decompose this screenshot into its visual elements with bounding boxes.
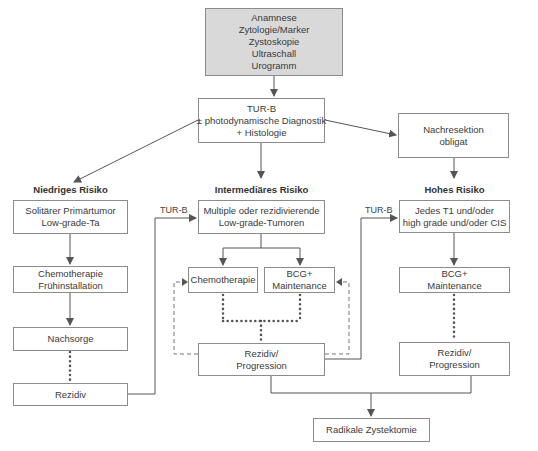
turb-line: ± photodynamische Diagnostik [197, 115, 326, 127]
intermediate-rezidiv-box: Rezidiv/ Progression [198, 343, 325, 376]
intermediate-tumor-box: Multiple oder rezidivierende Low-grade-T… [198, 200, 325, 234]
box-line: Rezidiv/ [245, 348, 279, 360]
box-line: Progression [236, 360, 287, 372]
box-line: Chemotherapie [191, 274, 256, 286]
box-line: Maintenance [427, 280, 481, 292]
diagnostics-line: Zystoskopie [249, 36, 300, 48]
intermediate-chemo-box: Chemotherapie [188, 267, 258, 293]
nachresektion-line: Nachresektion [423, 124, 484, 136]
low-primary-tumor-box: Solitärer Primärtumor Low-grade-Ta [13, 200, 128, 234]
heading-low-risk: Niedriges Risiko [13, 184, 128, 195]
box-line: Radikale Zystektomie [326, 424, 417, 436]
high-rezidiv-box: Rezidiv/ Progression [399, 342, 510, 376]
low-chemo-box: Chemotherapie Frühinstallation [13, 266, 128, 293]
diagnostics-box: Anamnese Zytologie/Marker Zystoskopie Ul… [205, 8, 343, 76]
turb-line: TUR-B [247, 103, 276, 115]
diagnostics-line: Ultraschall [252, 48, 296, 60]
heading-intermediate-risk: Intermediäres Risiko [198, 184, 325, 195]
box-line: Low-grade-Tumoren [219, 217, 305, 229]
nachresektion-line: obligat [440, 136, 468, 148]
box-line: Low-grade-Ta [41, 217, 99, 229]
low-nachsorge-box: Nachsorge [13, 327, 128, 351]
box-line: Multiple oder rezidivierende [203, 205, 319, 217]
box-line: BCG+ [286, 268, 312, 280]
box-line: Jedes T1 und/oder [415, 205, 494, 217]
turb-box: TUR-B ± photodynamische Diagnostik + His… [198, 98, 325, 143]
box-line: high grade und/oder CIS [403, 217, 507, 229]
box-line: Frühinstallation [38, 280, 102, 292]
high-tumor-box: Jedes T1 und/oder high grade und/oder CI… [399, 200, 510, 233]
turb-line: + Histologie [237, 127, 287, 139]
nachresektion-box: Nachresektion obligat [398, 113, 509, 158]
box-line: Chemotherapie [38, 268, 103, 280]
low-rezidiv-box: Rezidiv [13, 383, 128, 406]
high-bcg-box: BCG+ Maintenance [399, 267, 510, 293]
radical-cystectomy-box: Radikale Zystektomie [313, 418, 430, 442]
box-line: Nachsorge [48, 333, 94, 345]
intermediate-bcg-box: BCG+ Maintenance [264, 267, 335, 293]
box-line: Rezidiv [55, 389, 86, 401]
diagnostics-line: Urogramm [252, 60, 297, 72]
box-line: BCG+ [441, 268, 467, 280]
box-line: Solitärer Primärtumor [25, 205, 115, 217]
turb-edge-label-right: TUR-B [365, 205, 393, 215]
turb-edge-label-left: TUR-B [160, 205, 188, 215]
box-line: Rezidiv/ [438, 347, 472, 359]
diagnostics-line: Anamnese [251, 12, 296, 24]
diagnostics-line: Zytologie/Marker [239, 24, 310, 36]
box-line: Progression [429, 359, 480, 371]
heading-high-risk: Hohes Risiko [399, 184, 510, 195]
box-line: Maintenance [272, 280, 326, 292]
flowchart: Anamnese Zytologie/Marker Zystoskopie Ul… [0, 0, 538, 451]
